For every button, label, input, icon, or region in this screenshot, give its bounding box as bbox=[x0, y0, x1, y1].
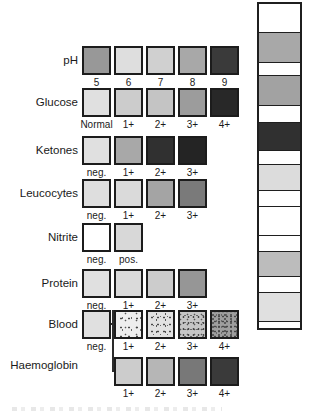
value-label-glucose-1: 1+ bbox=[123, 119, 134, 130]
swatch-leucocytes-1 bbox=[114, 179, 143, 208]
row-label-haemoglobin: Haemoglobin bbox=[0, 359, 78, 372]
strip-reagent-pad bbox=[259, 122, 300, 151]
swatch-blood-1 bbox=[114, 310, 143, 339]
strip-reagent-pad bbox=[259, 251, 300, 277]
swatch-leucocytes-2 bbox=[146, 179, 175, 208]
strip-reagent-pad bbox=[259, 164, 300, 191]
value-label-ketones-2: 2+ bbox=[155, 167, 166, 178]
value-label-ketones-neg: neg. bbox=[87, 167, 106, 178]
swatch-haemoglobin-2 bbox=[146, 357, 175, 386]
value-label-glucose-Normal: Normal bbox=[80, 119, 112, 130]
value-label-glucose-4: 4+ bbox=[219, 119, 230, 130]
row-label-glucose: Glucose bbox=[0, 96, 78, 109]
strip-reagent-pad bbox=[259, 206, 300, 236]
swatch-nitrite-neg bbox=[82, 223, 111, 252]
swatch-ph-5 bbox=[82, 46, 111, 75]
value-label-blood-neg: neg. bbox=[87, 341, 106, 352]
value-label-blood-3: 3+ bbox=[187, 341, 198, 352]
strip-reagent-pad bbox=[259, 292, 300, 322]
strip-gap bbox=[259, 191, 300, 206]
caption-fragment-cropped bbox=[12, 407, 222, 411]
swatch-blood-neg bbox=[82, 310, 111, 339]
swatch-ketones-3 bbox=[178, 136, 207, 165]
swatch-protein-2 bbox=[146, 269, 175, 298]
strip-gap bbox=[259, 277, 300, 292]
value-label-ph-8: 8 bbox=[190, 77, 196, 88]
swatch-glucose-Normal bbox=[82, 88, 111, 117]
value-label-nitrite-pos: pos. bbox=[119, 254, 138, 265]
value-label-haemoglobin-2: 2+ bbox=[155, 388, 166, 399]
swatch-ketones-1 bbox=[114, 136, 143, 165]
swatch-glucose-4 bbox=[210, 88, 239, 117]
value-label-ph-9: 9 bbox=[222, 77, 228, 88]
swatch-blood-3 bbox=[178, 310, 207, 339]
strip-gap bbox=[259, 4, 300, 32]
value-label-blood-2: 2+ bbox=[155, 341, 166, 352]
swatch-protein-1 bbox=[114, 269, 143, 298]
strip-gap bbox=[259, 151, 300, 164]
swatch-glucose-3 bbox=[178, 88, 207, 117]
strip-reagent-pad bbox=[259, 75, 300, 106]
value-label-nitrite-neg: neg. bbox=[87, 254, 106, 265]
swatch-blood-2 bbox=[146, 310, 175, 339]
row-label-ph: pH bbox=[0, 54, 78, 67]
swatch-ketones-2 bbox=[146, 136, 175, 165]
swatch-haemoglobin-3 bbox=[178, 357, 207, 386]
swatch-leucocytes-3 bbox=[178, 179, 207, 208]
row-label-ketones: Ketones bbox=[0, 144, 78, 157]
swatch-protein-neg bbox=[82, 269, 111, 298]
test-strip bbox=[257, 2, 302, 330]
row-label-leucocytes: Leucocytes bbox=[0, 187, 78, 200]
strip-gap bbox=[259, 322, 300, 328]
swatch-ph-8 bbox=[178, 46, 207, 75]
value-label-haemoglobin-4: 4+ bbox=[219, 388, 230, 399]
value-label-ketones-3: 3+ bbox=[187, 167, 198, 178]
value-label-ph-5: 5 bbox=[94, 77, 100, 88]
swatch-glucose-2 bbox=[146, 88, 175, 117]
swatch-ph-7 bbox=[146, 46, 175, 75]
value-label-glucose-3: 3+ bbox=[187, 119, 198, 130]
value-label-haemoglobin-3: 3+ bbox=[187, 388, 198, 399]
value-label-leucocytes-1: 1+ bbox=[123, 210, 134, 221]
swatch-glucose-1 bbox=[114, 88, 143, 117]
value-label-haemoglobin-1: 1+ bbox=[123, 388, 134, 399]
swatch-haemoglobin-4 bbox=[210, 357, 239, 386]
value-label-glucose-2: 2+ bbox=[155, 119, 166, 130]
strip-reagent-pad bbox=[259, 32, 300, 63]
swatch-haemoglobin-1 bbox=[114, 357, 143, 386]
value-label-blood-4: 4+ bbox=[219, 341, 230, 352]
row-label-protein: Protein bbox=[0, 277, 78, 290]
swatch-protein-3 bbox=[178, 269, 207, 298]
swatch-blood-4 bbox=[210, 310, 239, 339]
swatch-ketones-neg bbox=[82, 136, 111, 165]
strip-gap bbox=[259, 236, 300, 251]
value-label-ph-7: 7 bbox=[158, 77, 164, 88]
swatch-ph-6 bbox=[114, 46, 143, 75]
row-label-blood: Blood bbox=[0, 318, 78, 331]
value-label-blood-1: 1+ bbox=[123, 341, 134, 352]
value-label-leucocytes-2: 2+ bbox=[155, 210, 166, 221]
value-label-ketones-1: 1+ bbox=[123, 167, 134, 178]
strip-gap bbox=[259, 63, 300, 75]
urinalysis-colour-chart: pH56789GlucoseNormal1+2+3+4+Ketonesneg.1… bbox=[0, 0, 312, 412]
strip-gap bbox=[259, 106, 300, 122]
row-label-nitrite: Nitrite bbox=[0, 231, 78, 244]
value-label-leucocytes-neg: neg. bbox=[87, 210, 106, 221]
swatch-ph-9 bbox=[210, 46, 239, 75]
value-label-leucocytes-3: 3+ bbox=[187, 210, 198, 221]
value-label-ph-6: 6 bbox=[126, 77, 132, 88]
swatch-nitrite-pos bbox=[114, 223, 143, 252]
swatch-leucocytes-neg bbox=[82, 179, 111, 208]
